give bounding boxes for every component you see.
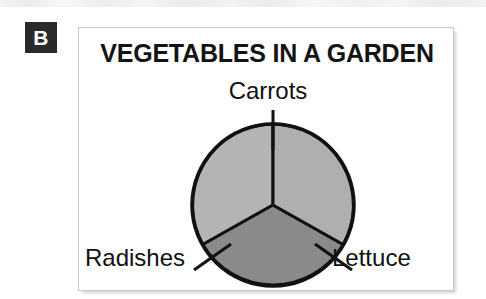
chart-card: VEGETABLES IN A GARDEN Carrots Radishes … bbox=[78, 27, 454, 291]
scan-artifact-band bbox=[0, 0, 486, 7]
pie-label-lettuce: Lettuce bbox=[332, 244, 462, 272]
pie-label-carrots: Carrots bbox=[198, 77, 338, 105]
pie-chart-plot-area: Carrots Radishes Lettuce bbox=[79, 28, 455, 292]
figure-letter-badge: B bbox=[25, 22, 57, 53]
pie-label-radishes: Radishes bbox=[85, 244, 225, 272]
